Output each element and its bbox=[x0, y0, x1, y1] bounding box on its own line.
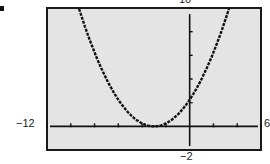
viewing-window-frame bbox=[47, 8, 261, 150]
graphing-calculator-plot bbox=[0, 0, 270, 164]
ymin-label: −2 bbox=[180, 151, 193, 162]
xmin-label: −12 bbox=[16, 118, 35, 129]
ymax-label: 10 bbox=[179, 0, 191, 5]
xmax-label: 6 bbox=[264, 118, 270, 129]
